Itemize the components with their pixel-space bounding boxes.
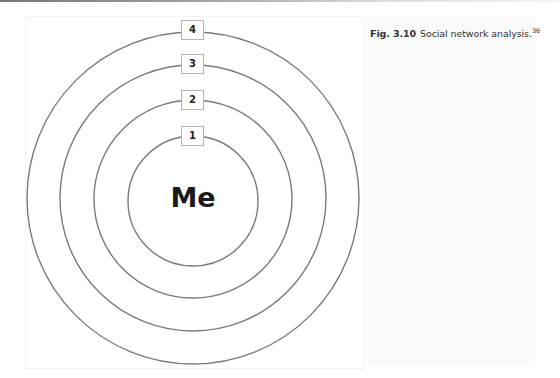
caption-panel: Fig. 3.10Social network analysis.36	[362, 16, 535, 366]
reference-superscript: 36	[532, 27, 540, 35]
caption-text: Social network analysis.	[420, 28, 532, 39]
ring-label-2: 2	[181, 90, 204, 110]
center-label-me: Me	[143, 183, 243, 213]
ring-label-3: 3	[181, 54, 204, 74]
figure-caption: Fig. 3.10Social network analysis.36	[370, 27, 540, 39]
figure-number: Fig. 3.10	[370, 28, 416, 39]
ring-label-4: 4	[181, 20, 204, 40]
ring-label-1: 1	[181, 126, 204, 146]
